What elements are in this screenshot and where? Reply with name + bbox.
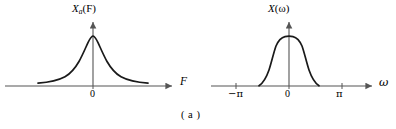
figure-caption: ( a ) bbox=[181, 110, 200, 121]
plot-continuous-spectrum bbox=[5, 22, 172, 89]
figure-container: Xa(F) 0 F X(ω) −π 0 π ω ( a ) bbox=[0, 0, 396, 129]
x-axis-label-continuous: F bbox=[180, 76, 187, 88]
x-tick-label-zero-continuous: 0 bbox=[90, 89, 95, 99]
x-axis-label-discrete: ω bbox=[379, 77, 388, 89]
y-axis-label-continuous-main: X bbox=[72, 2, 79, 14]
y-axis-label-continuous-arg: (F) bbox=[82, 2, 95, 14]
plot-discrete-spectrum bbox=[211, 22, 372, 89]
y-axis-label-continuous-subscript: a bbox=[79, 7, 83, 16]
y-axis-label-discrete: X(ω) bbox=[268, 3, 289, 14]
y-axis-label-discrete-main: X bbox=[268, 2, 275, 14]
x-tick-label-zero-discrete: 0 bbox=[285, 89, 290, 99]
x-tick-label-neg-pi: −π bbox=[228, 89, 243, 99]
y-axis-label-discrete-arg: (ω) bbox=[275, 2, 290, 14]
x-tick-label-pi: π bbox=[336, 89, 343, 99]
y-axis-label-continuous: Xa(F) bbox=[72, 3, 96, 14]
